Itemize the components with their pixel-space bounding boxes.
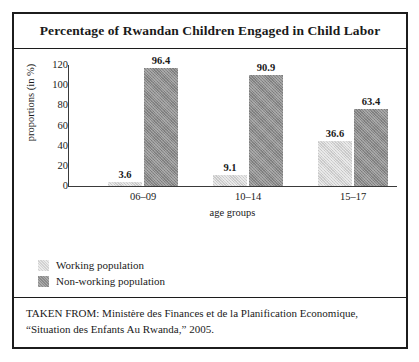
chart-region: proportions (in %) 120 100 80 60 40 20 0… bbox=[14, 49, 406, 249]
bar-working[interactable]: 3.6 bbox=[108, 182, 142, 186]
bar-value-label: 90.9 bbox=[257, 62, 275, 73]
y-tick-label: 60 bbox=[58, 120, 69, 131]
page-title: Percentage of Rwandan Children Engaged i… bbox=[40, 23, 380, 39]
source-divider bbox=[14, 297, 406, 298]
bar-value-label: 63.4 bbox=[362, 96, 380, 107]
y-axis-label: proportions (in %) bbox=[25, 43, 36, 163]
bar-value-label: 9.1 bbox=[223, 162, 236, 173]
y-tick-label: 80 bbox=[58, 100, 69, 111]
bar-value-label: 36.6 bbox=[326, 128, 344, 139]
bar-nonworking[interactable]: 90.9 bbox=[249, 75, 283, 186]
x-axis-line bbox=[68, 186, 397, 187]
source-note: TAKEN FROM: Ministère des Finances et de… bbox=[26, 306, 394, 338]
plot-area: 3.6 96.4 06–09 9.1 90.9 10–14 36.6 bbox=[68, 65, 397, 186]
bar-value-label: 96.4 bbox=[152, 55, 170, 66]
bar-group: 9.1 90.9 10–14 bbox=[213, 65, 283, 186]
y-tick-label: 100 bbox=[52, 80, 68, 91]
figure-title-bar: Percentage of Rwandan Children Engaged i… bbox=[14, 14, 406, 49]
figure-panel: Percentage of Rwandan Children Engaged i… bbox=[12, 12, 408, 349]
bar-working[interactable]: 9.1 bbox=[213, 175, 247, 186]
bar-value-label: 3.6 bbox=[118, 169, 131, 180]
x-tick-label: 06–09 bbox=[130, 191, 156, 202]
bar-nonworking[interactable]: 96.4 bbox=[144, 68, 178, 186]
y-tick-label: 20 bbox=[58, 161, 69, 172]
bar-group: 36.6 63.4 15–17 bbox=[318, 65, 388, 186]
chart-legend: Working population Non-working populatio… bbox=[38, 257, 165, 289]
bar-working[interactable]: 36.6 bbox=[318, 141, 352, 186]
legend-item-working[interactable]: Working population bbox=[38, 257, 165, 273]
legend-label: Working population bbox=[56, 259, 144, 271]
bar-group: 3.6 96.4 06–09 bbox=[108, 65, 178, 186]
x-tick-label: 10–14 bbox=[235, 191, 261, 202]
x-tick-label: 15–17 bbox=[340, 191, 366, 202]
legend-swatch-icon bbox=[38, 276, 49, 287]
y-axis-line bbox=[68, 65, 69, 186]
y-tick-label: 40 bbox=[58, 140, 69, 151]
y-tick-label: 120 bbox=[52, 60, 68, 71]
y-axis-ticks: 120 100 80 60 40 20 0 bbox=[40, 65, 68, 186]
x-axis-label: age groups bbox=[68, 207, 397, 218]
legend-label: Non-working population bbox=[56, 275, 165, 287]
bar-nonworking[interactable]: 63.4 bbox=[354, 109, 388, 186]
legend-swatch-icon bbox=[38, 260, 49, 271]
legend-item-nonworking[interactable]: Non-working population bbox=[38, 273, 165, 289]
